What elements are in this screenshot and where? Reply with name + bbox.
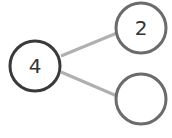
part-circle-bottom[interactable] xyxy=(116,74,166,124)
number-bond-diagram: 4 2 xyxy=(0,0,172,138)
connector-line-bottom xyxy=(61,72,117,96)
part-top-value: 2 xyxy=(135,16,148,40)
part-circle-top: 2 xyxy=(116,3,166,53)
whole-value: 4 xyxy=(29,54,42,78)
connector-line-top xyxy=(61,33,117,56)
whole-circle: 4 xyxy=(10,41,60,91)
